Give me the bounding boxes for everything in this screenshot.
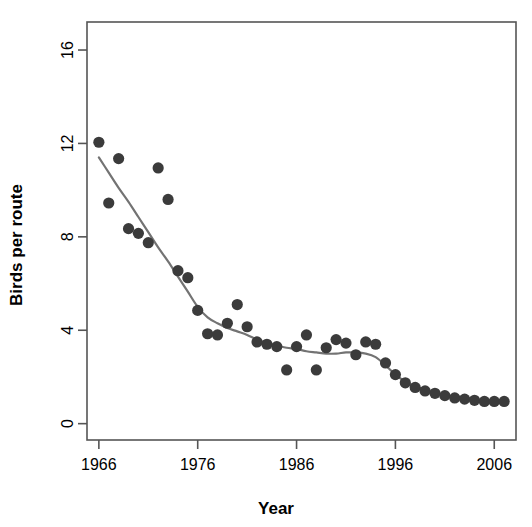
data-point — [410, 382, 421, 393]
data-point — [429, 388, 440, 399]
data-point — [390, 369, 401, 380]
data-point — [192, 305, 203, 316]
data-point — [143, 237, 154, 248]
data-point — [212, 329, 223, 340]
data-point — [261, 339, 272, 350]
data-point — [103, 197, 114, 208]
x-axis-title: Year — [258, 499, 294, 518]
data-point — [360, 336, 371, 347]
data-point — [459, 394, 470, 405]
data-point — [133, 228, 144, 239]
scatter-plot: 19661976198619962006 0481216 Year Birds … — [0, 0, 532, 527]
data-point — [499, 396, 510, 407]
data-point — [321, 342, 332, 353]
data-point — [400, 377, 411, 388]
data-point — [93, 137, 104, 148]
chart-figure: 19661976198619962006 0481216 Year Birds … — [0, 0, 532, 527]
x-tick-label: 1976 — [180, 456, 216, 473]
data-point — [469, 395, 480, 406]
y-tick-label: 0 — [59, 419, 76, 428]
y-tick-label: 4 — [59, 326, 76, 335]
plot-background — [0, 0, 532, 527]
data-point — [439, 390, 450, 401]
y-tick-label: 12 — [59, 134, 76, 152]
data-point — [419, 385, 430, 396]
data-point — [331, 334, 342, 345]
data-point — [113, 153, 124, 164]
x-tick-label: 1966 — [81, 456, 117, 473]
data-point — [370, 339, 381, 350]
data-point — [479, 396, 490, 407]
x-tick-label: 2006 — [476, 456, 512, 473]
data-point — [222, 318, 233, 329]
y-tick-label: 16 — [59, 41, 76, 59]
data-point — [153, 162, 164, 173]
x-tick-label: 1986 — [279, 456, 315, 473]
y-tick-label: 8 — [59, 232, 76, 241]
data-point — [281, 364, 292, 375]
data-point — [123, 223, 134, 234]
data-point — [340, 337, 351, 348]
data-point — [311, 364, 322, 375]
data-point — [350, 349, 361, 360]
data-point — [449, 392, 460, 403]
data-point — [489, 396, 500, 407]
data-point — [301, 329, 312, 340]
data-point — [162, 194, 173, 205]
data-point — [291, 341, 302, 352]
data-point — [380, 357, 391, 368]
x-tick-label: 1996 — [378, 456, 414, 473]
data-point — [242, 321, 253, 332]
data-point — [172, 265, 183, 276]
data-point — [202, 328, 213, 339]
data-point — [232, 299, 243, 310]
data-point — [271, 341, 282, 352]
y-axis-title: Birds per route — [7, 184, 26, 306]
data-point — [251, 336, 262, 347]
data-point — [182, 272, 193, 283]
